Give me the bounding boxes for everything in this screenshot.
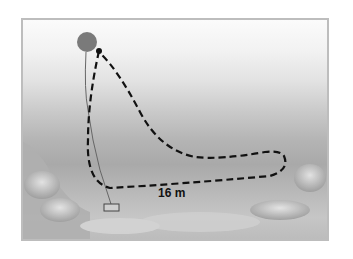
start-point-icon [96, 48, 102, 54]
anchor-weight-icon [104, 204, 119, 211]
dashed-swim-path [88, 51, 286, 188]
surface-marker-buoy-icon [77, 32, 97, 52]
distance-label: 16 m [158, 186, 185, 200]
diagram-svg [0, 0, 353, 259]
